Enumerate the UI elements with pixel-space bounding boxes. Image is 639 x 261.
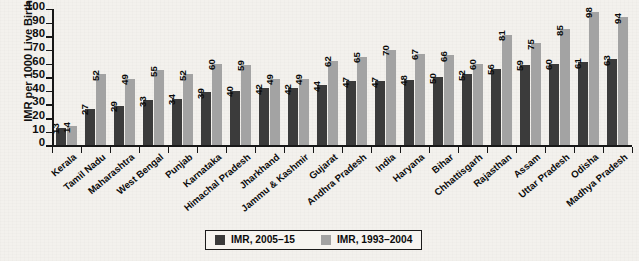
bar-group: 3960 <box>201 9 221 145</box>
x-tick-mark <box>400 147 401 153</box>
x-tick-mark <box>458 147 459 153</box>
legend-item: IMR, 1993–2004 <box>321 235 412 245</box>
bar-value-label: 47 <box>371 77 381 88</box>
bar-value-label: 65 <box>352 52 362 63</box>
bar-value-label: 52 <box>91 70 101 81</box>
bar-group: 4249 <box>288 9 308 145</box>
y-tick-label: 90 <box>32 15 45 26</box>
x-tick-mark <box>429 147 430 153</box>
legend-swatch <box>215 235 225 245</box>
y-tick-label: 0 <box>39 137 45 148</box>
bar-value-label: 56 <box>487 65 497 76</box>
bar-recent: 60 <box>549 64 559 146</box>
legend-label: IMR, 1993–2004 <box>337 235 412 245</box>
bar-older: 49 <box>270 79 280 146</box>
y-tick-label: 80 <box>32 28 45 39</box>
bar-group: 4770 <box>375 9 395 145</box>
bar-value-label: 81 <box>497 31 507 42</box>
bar-group: 3452 <box>172 9 192 145</box>
y-tick-mark <box>46 36 52 37</box>
bar-value-label: 40 <box>226 87 236 98</box>
bar-group: 6394 <box>607 9 627 145</box>
bar-group: 4249 <box>259 9 279 145</box>
bar-recent: 39 <box>201 92 211 145</box>
bar-older: 55 <box>154 70 164 145</box>
category-label-india: India <box>373 152 396 174</box>
bar-group: 4867 <box>404 9 424 145</box>
bar-value-label: 60 <box>545 59 555 70</box>
bar-group: 6198 <box>578 9 598 145</box>
bar-value-label: 98 <box>584 7 594 18</box>
x-tick-mark <box>81 147 82 153</box>
bar-group: 5681 <box>491 9 511 145</box>
bar-value-label: 27 <box>81 104 91 115</box>
bar-value-label: 14 <box>62 122 72 133</box>
bar-group: 5975 <box>520 9 540 145</box>
bar-recent: 42 <box>259 88 269 145</box>
bar-older: 62 <box>328 61 338 146</box>
bar-recent: 48 <box>404 80 414 145</box>
bar-older: 70 <box>386 50 396 145</box>
x-tick-mark <box>516 147 517 153</box>
bar-value-label: 66 <box>439 51 449 62</box>
x-tick-mark <box>574 147 575 153</box>
y-tick-label: 20 <box>32 110 45 121</box>
bar-value-label: 47 <box>342 77 352 88</box>
bar-value-label: 29 <box>110 102 120 113</box>
bar-recent: 56 <box>491 69 501 145</box>
bar-group: 4059 <box>230 9 250 145</box>
bar-older: 65 <box>357 57 367 146</box>
bar-older: 59 <box>241 65 251 145</box>
y-tick-mark <box>46 104 52 105</box>
bar-value-label: 50 <box>429 73 439 84</box>
x-tick-mark <box>632 147 633 153</box>
bar-older: 49 <box>125 79 135 146</box>
bar-value-label: 55 <box>149 66 159 77</box>
bar-value-label: 63 <box>603 55 613 66</box>
bar-value-label: 39 <box>197 88 207 99</box>
x-tick-mark <box>139 147 140 153</box>
x-tick-mark <box>197 147 198 153</box>
bar-group: 1314 <box>56 9 76 145</box>
x-tick-mark <box>168 147 169 153</box>
bar-value-label: 13 <box>52 123 62 134</box>
bar-recent: 29 <box>114 106 124 146</box>
y-tick-label: 30 <box>32 96 45 107</box>
bar-value-label: 75 <box>526 39 536 50</box>
bar-recent: 27 <box>85 109 95 146</box>
x-tick-mark <box>487 147 488 153</box>
bar-group: 2752 <box>85 9 105 145</box>
bar-value-label: 94 <box>613 13 623 24</box>
bar-older: 66 <box>444 55 454 145</box>
bar-value-label: 70 <box>381 46 391 57</box>
bar-older: 67 <box>415 54 425 145</box>
bar-value-label: 62 <box>323 57 333 68</box>
bar-recent: 44 <box>317 85 327 145</box>
y-tick-mark <box>46 23 52 24</box>
x-tick-mark <box>255 147 256 153</box>
imr-bar-chart: IMR per 1000 Live Births 010203040506070… <box>0 0 639 261</box>
y-tick-label: 70 <box>32 42 45 53</box>
x-tick-mark <box>342 147 343 153</box>
y-tick-mark <box>46 9 52 10</box>
bar-value-label: 59 <box>516 61 526 72</box>
bar-recent: 50 <box>433 77 443 145</box>
bar-older: 85 <box>560 29 570 145</box>
bar-recent: 63 <box>607 59 617 145</box>
bar-value-label: 60 <box>207 59 217 70</box>
bar-value-label: 49 <box>120 74 130 85</box>
y-tick-mark <box>46 64 52 65</box>
y-tick-mark <box>46 50 52 51</box>
bar-value-label: 42 <box>255 84 265 95</box>
plot-area: 0102030405060708090100 13142752294933553… <box>52 9 632 147</box>
bar-value-label: 34 <box>168 95 178 106</box>
bar-recent: 34 <box>172 99 182 145</box>
bar-group: 2949 <box>114 9 134 145</box>
bar-older: 81 <box>502 35 512 145</box>
y-tick-mark <box>46 118 52 119</box>
bar-group: 5066 <box>433 9 453 145</box>
bar-older: 14 <box>67 126 77 145</box>
x-tick-mark <box>52 147 53 153</box>
y-tick-label: 60 <box>32 56 45 67</box>
bar-group: 4462 <box>317 9 337 145</box>
